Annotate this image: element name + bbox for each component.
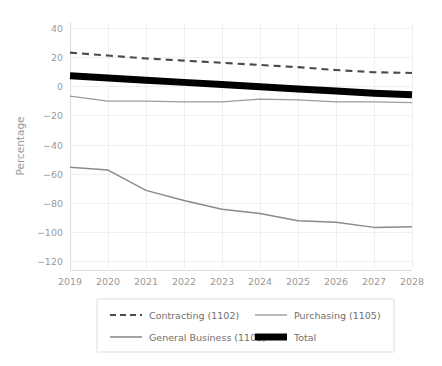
y-tick-label: −20 [43, 110, 63, 121]
legend-label-general-business: General Business (1101) [149, 332, 266, 343]
series-line-purchasing [70, 96, 412, 103]
series-line-total [70, 76, 412, 95]
x-tick-label: 2025 [286, 276, 310, 287]
line-chart: 40 20 0 −20 −40 −60 −80 −100 −120 2019 2… [0, 0, 442, 366]
x-tick-label: 2019 [58, 276, 82, 287]
y-tick-labels: 40 20 0 −20 −40 −60 −80 −100 −120 [37, 23, 63, 267]
y-axis-title: Percentage [14, 116, 26, 175]
legend-box [97, 299, 394, 352]
y-tick-label: −80 [43, 198, 63, 209]
y-tick-label: −100 [37, 227, 63, 238]
y-tick-label: −40 [43, 140, 63, 151]
x-tick-label: 2027 [362, 276, 386, 287]
y-tick-label: −60 [43, 169, 63, 180]
legend-label-purchasing: Purchasing (1105) [294, 310, 381, 321]
x-tick-label: 2022 [172, 276, 196, 287]
y-tick-label: 20 [51, 52, 63, 63]
series-layer [70, 53, 412, 228]
x-tick-label: 2023 [210, 276, 234, 287]
x-tick-label: 2021 [134, 276, 158, 287]
series-line-contracting [70, 53, 412, 73]
legend-label-total: Total [293, 332, 316, 343]
x-gridlines [70, 24, 412, 268]
x-tick-labels: 2019 2020 2021 2022 2023 2024 2025 2026 … [58, 276, 424, 287]
x-tick-label: 2026 [324, 276, 348, 287]
x-tick-label: 2020 [96, 276, 120, 287]
legend-label-contracting: Contracting (1102) [149, 310, 239, 321]
chart-legend: Contracting (1102) Purchasing (1105) Gen… [97, 299, 394, 352]
y-tick-label: 0 [57, 81, 63, 92]
y-tick-label: 40 [51, 23, 63, 34]
series-line-general-business [70, 167, 412, 227]
chart-figure: 40 20 0 −20 −40 −60 −80 −100 −120 2019 2… [0, 0, 442, 366]
x-tick-label: 2028 [400, 276, 424, 287]
y-tick-label: −120 [37, 256, 63, 267]
x-tick-label: 2024 [248, 276, 272, 287]
